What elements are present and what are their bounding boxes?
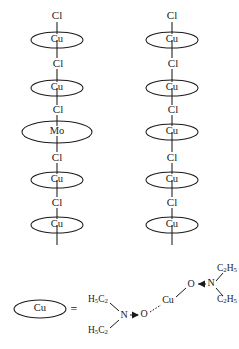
metal-label-cu: Cu — [166, 81, 179, 92]
metal-label-cu: Cu — [166, 218, 179, 229]
substituent-label-h5c2-bottom: H5C2 — [88, 325, 109, 335]
metal-label-cu: Cu — [51, 218, 64, 229]
bridge-label-cl: Cl — [167, 9, 177, 21]
bond-o-cu-dashed — [150, 305, 161, 312]
bond-cu-o — [176, 288, 186, 297]
arrow-head-icon — [132, 312, 139, 319]
bridge-label-cl: Cl — [167, 151, 177, 163]
bridge-label-cl: Cl — [52, 196, 62, 208]
bridge-label-cl: Cl — [52, 9, 62, 21]
bond-n-c — [216, 273, 223, 281]
bridge-label-cl: Cl — [167, 196, 177, 208]
metal-label-cu: Cu — [51, 173, 64, 184]
left-chain: Cl Cl Cl Cl Cl Cu Cu Mo Cu Cu — [22, 9, 92, 245]
atom-label-o-left: O — [140, 308, 147, 319]
cu-node-legend: Cu = H5C2 H5C2 N O Cu O — [14, 263, 238, 335]
bridge-label-cl: Cl — [53, 57, 63, 69]
right-chain: Cl Cl Cl Cl Cl Cu Cu Cu Cu Cu — [146, 9, 198, 245]
metal-label-cu: Cu — [51, 33, 64, 44]
atom-label-n-left: N — [120, 309, 127, 320]
substituent-label-h5c2-top: H5C2 — [88, 294, 109, 304]
metal-label-cu: Cu — [166, 33, 179, 44]
metal-label-mo: Mo — [50, 125, 65, 136]
bond-c-n — [110, 320, 119, 328]
metal-label-cu: Cu — [166, 125, 179, 136]
atom-label-n-right: N — [207, 277, 214, 288]
bridge-label-cl: Cl — [168, 57, 178, 69]
bridge-label-cl: Cl — [53, 103, 63, 115]
structure-canvas: Cl Cl Cl Cl Cl Cu Cu Mo Cu Cu — [0, 0, 239, 349]
equals-sign: = — [71, 302, 78, 316]
arrow-head-icon — [198, 281, 205, 288]
metal-label-cu: Cu — [51, 81, 64, 92]
bond-c-n — [110, 303, 119, 311]
legend-key-label: Cu — [34, 302, 47, 313]
substituent-label-c2h5-top: C2H5 — [217, 263, 238, 273]
substituent-label-c2h5-bottom: C2H5 — [217, 294, 238, 304]
diagram-root: Cl Cl Cl Cl Cl Cu Cu Mo Cu Cu — [0, 0, 239, 349]
atom-label-cu-center: Cu — [162, 294, 174, 305]
atom-label-o-right: O — [187, 278, 194, 289]
metal-label-cu: Cu — [166, 173, 179, 184]
bridge-label-cl: Cl — [168, 103, 178, 115]
bridge-label-cl: Cl — [52, 151, 62, 163]
